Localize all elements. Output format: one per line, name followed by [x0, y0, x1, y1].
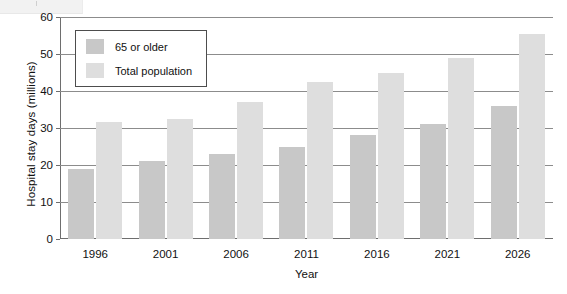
bar-chart-figure: Hospital stay days (millions) 0102030405… — [0, 0, 567, 294]
bar-older — [350, 135, 376, 239]
y-tick-label: 60 — [40, 11, 53, 23]
bar-total — [378, 73, 404, 240]
bar-group: 2011 — [279, 17, 333, 239]
x-tick-label: 2011 — [294, 248, 319, 260]
x-axis-title: Year — [60, 268, 553, 280]
y-tick-label: 40 — [40, 85, 53, 97]
y-tick-label: 0 — [47, 233, 53, 245]
x-tick-label: 2001 — [153, 248, 179, 260]
y-tick-mark — [56, 239, 60, 240]
bar-total — [519, 34, 545, 239]
chart-legend: 65 or older Total population — [75, 30, 207, 87]
y-axis-title: Hospital stay days (millions) — [25, 19, 37, 249]
legend-label-older: 65 or older — [115, 41, 168, 53]
legend-swatch-total — [86, 63, 104, 78]
x-tick-label: 1996 — [82, 248, 108, 260]
bar-older — [139, 161, 165, 239]
bar-total — [96, 122, 122, 239]
x-tick-label: 2016 — [364, 248, 390, 260]
legend-label-total: Total population — [115, 65, 192, 77]
y-tick-label: 10 — [40, 196, 53, 208]
x-tick-label: 2021 — [435, 248, 461, 260]
legend-swatch-older — [86, 39, 104, 54]
scan-artifact-tick — [36, 1, 37, 6]
bar-older — [491, 106, 517, 239]
bar-older — [420, 124, 446, 239]
bar-group: 2021 — [420, 17, 474, 239]
bar-older — [209, 154, 235, 239]
y-tick-label: 30 — [40, 122, 53, 134]
bar-total — [307, 82, 333, 239]
x-tick-label: 2026 — [505, 248, 531, 260]
bar-older — [279, 147, 305, 240]
bar-group: 2016 — [350, 17, 404, 239]
bar-total — [167, 119, 193, 239]
bar-total — [237, 102, 263, 239]
legend-item-older: 65 or older — [86, 39, 192, 54]
bar-group: 2006 — [209, 17, 263, 239]
x-tick-label: 2006 — [223, 248, 249, 260]
bar-group: 2026 — [491, 17, 545, 239]
bar-total — [448, 58, 474, 239]
y-tick-label: 50 — [40, 48, 53, 60]
bar-older — [68, 169, 94, 239]
legend-item-total: Total population — [86, 63, 192, 78]
y-tick-label: 20 — [40, 159, 53, 171]
